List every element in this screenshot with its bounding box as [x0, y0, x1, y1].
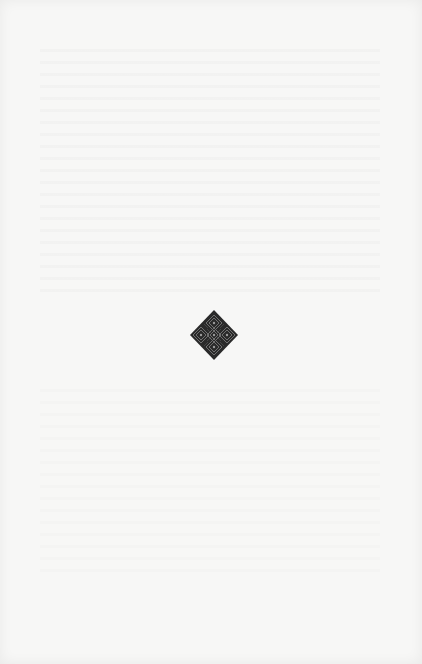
show-through-text-lower: [40, 380, 380, 580]
show-through-text-upper: [40, 40, 380, 300]
book-page: [0, 0, 422, 664]
diamond-fleuron-icon: [189, 309, 239, 361]
